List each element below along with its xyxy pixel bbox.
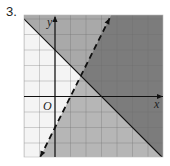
x-axis-label: x (153, 97, 160, 111)
y-axis-label: y (46, 15, 53, 29)
inequality-graph: y x O (0, 0, 170, 166)
origin-label: O (43, 99, 52, 113)
